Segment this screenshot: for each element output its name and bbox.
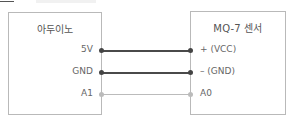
mq7-pin-gnd: – (GND) — [200, 66, 235, 76]
cropped-divider-line — [0, 1, 14, 2]
junction-dot-icon — [99, 48, 104, 53]
junction-dot-icon — [188, 70, 193, 75]
junction-dot-icon — [99, 92, 104, 97]
wire-5v-vcc — [101, 50, 190, 52]
wire-a1-a0 — [101, 94, 190, 95]
arduino-pin-gnd: GND — [72, 66, 93, 76]
mq7-title: MQ-7 센서 — [191, 20, 285, 35]
mq7-sensor-box: MQ-7 센서 + (VCC) – (GND) A0 — [190, 11, 286, 115]
cropped-caption-fragment — [36, 0, 96, 3]
junction-dot-icon — [99, 70, 104, 75]
mq7-pin-vcc: + (VCC) — [200, 44, 236, 54]
arduino-pin-a1: A1 — [81, 88, 93, 98]
arduino-title: 아두이노 — [9, 21, 101, 36]
junction-dot-icon — [188, 48, 193, 53]
junction-dot-icon — [188, 92, 193, 97]
mq7-pin-a0: A0 — [200, 88, 212, 98]
arduino-pin-5v: 5V — [81, 44, 93, 54]
wire-gnd-gnd — [101, 72, 190, 74]
arduino-box: 아두이노 5V GND A1 — [8, 12, 102, 115]
